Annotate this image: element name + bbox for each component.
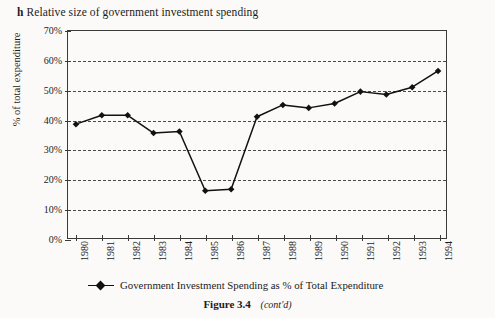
- x-axis-tick-label: 1990: [339, 241, 350, 261]
- x-axis-tick-label: 1983: [157, 241, 168, 261]
- data-point-marker: [280, 102, 287, 109]
- data-point-marker: [150, 130, 157, 137]
- y-axis-tick: [65, 210, 71, 211]
- x-axis-tick-label: 1988: [287, 241, 298, 261]
- y-axis-tick: [65, 150, 71, 151]
- data-point-marker: [331, 100, 338, 107]
- data-point-marker: [305, 105, 312, 112]
- y-axis-labels: 0%10%20%30%40%50%60%70%: [28, 30, 62, 239]
- panel-heading: h Relative size of government investment…: [17, 6, 258, 18]
- x-axis-tick-label: 1991: [365, 241, 376, 261]
- gridline: [68, 210, 446, 211]
- y-axis-tick: [65, 91, 71, 92]
- x-axis-tick-label: 1982: [131, 241, 142, 261]
- y-axis-tick-label: 50%: [44, 84, 62, 95]
- y-axis-tick: [65, 31, 71, 32]
- figure-continued-note: (cont'd): [261, 299, 292, 310]
- x-axis-tick-label: 1987: [261, 241, 272, 261]
- data-point-marker: [409, 84, 416, 91]
- figure-caption: Figure 3.4 (cont'd): [0, 298, 495, 310]
- data-point-marker: [435, 68, 442, 75]
- x-axis-labels: 1980198119821983198419851986198719881989…: [67, 241, 447, 281]
- figure-number: Figure 3.4: [203, 298, 250, 310]
- data-point-marker: [254, 113, 261, 120]
- data-point-marker: [383, 91, 390, 98]
- plot-area: [67, 30, 447, 239]
- y-axis-tick-label: 30%: [44, 144, 62, 155]
- data-point-marker: [73, 121, 80, 128]
- data-point-marker: [202, 187, 209, 194]
- data-point-marker: [124, 112, 131, 119]
- series-line-chart: [68, 31, 446, 238]
- y-axis-tick-label: 20%: [44, 174, 62, 185]
- x-axis-tick-label: 1986: [235, 241, 246, 261]
- y-axis-tick: [65, 61, 71, 62]
- legend-diamond-icon: [88, 280, 114, 290]
- data-series-layer: [68, 31, 446, 238]
- x-axis-tick-label: 1981: [105, 241, 116, 261]
- x-axis-tick-label: 1989: [313, 241, 324, 261]
- x-axis-tick-label: 1985: [209, 241, 220, 261]
- y-axis-tick-label: 0%: [49, 234, 62, 245]
- gridline: [68, 61, 446, 62]
- data-point-marker: [176, 128, 183, 135]
- gridline: [68, 150, 446, 151]
- figure-page: h Relative size of government investment…: [0, 0, 495, 318]
- gridline: [68, 121, 446, 122]
- gridline: [68, 91, 446, 92]
- x-axis-tick-label: 1992: [391, 241, 402, 261]
- x-axis-tick-label: 1980: [79, 241, 90, 261]
- gridline: [68, 180, 446, 181]
- legend-label: Government Investment Spending as % of T…: [120, 279, 383, 291]
- x-axis-tick-label: 1984: [183, 241, 194, 261]
- y-axis-title: % of total expenditure: [11, 20, 22, 140]
- y-axis-tick-label: 70%: [44, 25, 62, 36]
- y-axis-tick-label: 40%: [44, 114, 62, 125]
- y-axis-tick-label: 10%: [44, 204, 62, 215]
- chart-legend: Government Investment Spending as % of T…: [88, 279, 383, 291]
- panel-heading-text: Relative size of government investment s…: [26, 6, 258, 18]
- y-axis-tick: [65, 121, 71, 122]
- panel-letter: h: [17, 6, 24, 18]
- x-axis-tick-label: 1994: [443, 241, 454, 261]
- y-axis-tick: [65, 180, 71, 181]
- y-axis-tick-label: 60%: [44, 54, 62, 65]
- data-point-marker: [228, 186, 235, 193]
- x-axis-tick-label: 1993: [417, 241, 428, 261]
- series-line: [76, 71, 438, 191]
- data-point-marker: [99, 112, 106, 119]
